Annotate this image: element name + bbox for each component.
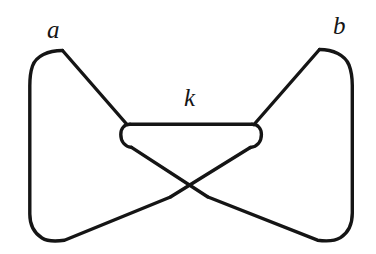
right-lobe-path [208, 50, 352, 241]
label-b: b [333, 13, 346, 38]
knot-diagram-figure: a b k [0, 0, 376, 254]
center-loop-right-cap [250, 124, 261, 147]
left-lobe-path [30, 51, 171, 242]
loop-bottom-right-strand [171, 148, 251, 197]
center-loop-left-cap [121, 124, 132, 147]
left-lobe-upper-diagonal [63, 51, 128, 125]
loop-bottom-left-strand [132, 147, 208, 196]
right-lobe-upper-diagonal [254, 50, 320, 125]
label-k: k [184, 85, 195, 110]
label-a: a [47, 17, 60, 42]
